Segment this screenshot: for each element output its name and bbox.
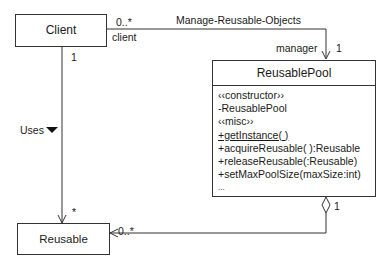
uses-association-name: Uses [20, 125, 44, 136]
uses-reusable-multiplicity: * [72, 207, 76, 218]
class-client-name: Client [16, 15, 106, 46]
member-set-max-pool-size: +setMaxPoolSize(maxSize:int) [218, 168, 375, 181]
class-reusable-name: Reusable [18, 224, 109, 254]
member-get-instance: +getInstance( ) [218, 129, 375, 142]
client-role-label: client [112, 32, 137, 43]
aggregation-pool-multiplicity: 1 [334, 201, 340, 212]
class-client[interactable]: Client [15, 14, 107, 47]
pool-multiplicity-label: 1 [336, 43, 342, 54]
class-reusable-pool-name: ReusablePool [213, 61, 375, 86]
member-acquire-reusable: +acquireReusable( ):Reusable [218, 142, 375, 155]
class-reusable[interactable]: Reusable [17, 223, 110, 255]
member-constructor: -ReusablePool [218, 102, 375, 115]
member-ellipsis: ... [218, 181, 375, 194]
member-release-reusable: +releaseReusable(:Reusable) [218, 155, 375, 168]
manager-role-label: manager [276, 43, 317, 54]
member-stereotype-misc: ‹‹misc›› [218, 115, 375, 128]
class-reusable-pool[interactable]: ReusablePool ‹‹constructor›› -ReusablePo… [212, 60, 376, 197]
uses-direction-triangle-icon [46, 127, 58, 133]
uses-client-multiplicity: 1 [71, 52, 77, 63]
class-reusable-pool-members: ‹‹constructor›› -ReusablePool ‹‹misc›› +… [213, 86, 375, 195]
client-multiplicity-label: 0..* [116, 17, 132, 28]
member-stereotype-constructor: ‹‹constructor›› [218, 89, 375, 102]
aggregation-reusable-multiplicity: 0..* [118, 226, 134, 237]
manage-association-name: Manage-Reusable-Objects [176, 15, 301, 26]
aggregation-diamond-icon [322, 197, 330, 213]
